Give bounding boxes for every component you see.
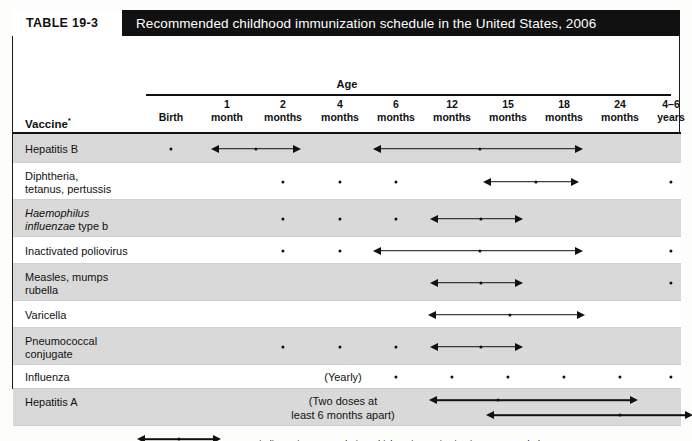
cell-note: (Two doses atleast 6 months apart) <box>291 394 394 422</box>
column-header-m18: 18months <box>545 98 583 124</box>
vaccine-name-suffix: type b <box>75 220 108 232</box>
vaccine-name-line: Hepatitis A <box>25 396 78 409</box>
column-header-y46: 4–6years <box>657 98 684 124</box>
column-header-line1: 6 <box>377 98 415 111</box>
range-arrow <box>430 342 523 352</box>
vaccine-name-influenza: Influenza <box>25 371 70 384</box>
legend-arrow <box>137 434 221 441</box>
arrow-head-right-icon <box>515 279 523 287</box>
dose-dot <box>338 180 341 183</box>
arrow-head-left-icon <box>486 411 494 419</box>
italic-species-name: Haemophilus <box>25 207 89 219</box>
column-header-line1: 18 <box>545 98 583 111</box>
range-arrow <box>373 144 583 154</box>
vaccine-header-footnote-marker: * <box>68 116 71 125</box>
dose-dot <box>281 217 284 220</box>
column-header-line2: months <box>321 111 359 124</box>
arrow-head-left-icon <box>483 178 491 186</box>
dose-dot <box>281 180 284 183</box>
table-row: Measles, mumpsrubella <box>13 264 681 301</box>
dose-dot <box>450 375 453 378</box>
table-row: Hepatitis A(Two doses atleast 6 months a… <box>13 389 681 426</box>
arrow-mid-dot <box>479 345 482 348</box>
dose-dot <box>669 180 672 183</box>
table-row: Hepatitis B <box>13 134 681 163</box>
arrow-head-left-icon <box>137 435 145 441</box>
column-header-line1: 24 <box>601 98 639 111</box>
table-frame: Age Vaccine* Birth1month2months4months6m… <box>12 36 680 389</box>
column-header-line1: 2 <box>264 98 302 111</box>
column-header-line1: 12 <box>433 98 471 111</box>
table-title-bar: TABLE 19-3 Recommended childhood immuniz… <box>12 10 680 36</box>
column-header-m6: 6months <box>377 98 415 124</box>
vaccine-column-header: Vaccine* <box>25 116 71 130</box>
vaccine-name-line: Pneumococcal <box>25 335 97 348</box>
arrow-mid-dot <box>479 281 482 284</box>
age-group-header: Age <box>147 78 547 90</box>
vaccine-name-line: Influenza <box>25 371 70 384</box>
arrow-mid-dot <box>177 437 180 440</box>
column-header-m12: 12months <box>433 98 471 124</box>
dose-dot <box>394 217 397 220</box>
arrow-head-right-icon <box>515 343 523 351</box>
cell-note-line: (Two doses at <box>291 394 394 408</box>
arrow-head-right-icon <box>515 215 523 223</box>
column-header-line1: 1 <box>211 98 243 111</box>
arrow-shaft <box>436 282 517 284</box>
column-header-m1: 1month <box>211 98 243 124</box>
vaccine-name-varicella: Varicella <box>25 309 66 322</box>
cell-note: (Yearly) <box>324 370 362 384</box>
arrow-head-left-icon <box>430 279 438 287</box>
vaccine-name-line: Measles, mumps <box>25 271 108 284</box>
arrow-head-left-icon <box>428 311 436 319</box>
age-header-rule <box>146 94 671 96</box>
table-title: Recommended childhood immunization sched… <box>122 10 680 36</box>
table-figure: TABLE 19-3 Recommended childhood immuniz… <box>0 0 692 441</box>
column-header-line1: 15 <box>489 98 527 111</box>
vaccine-name-line: rubella <box>25 284 108 297</box>
vaccine-name-haemophilus-influenzae-type-b: Haemophilusinfluenzae type b <box>25 207 108 233</box>
arrow-head-left-icon <box>430 215 438 223</box>
column-header-m4: 4months <box>321 98 359 124</box>
dose-dot <box>669 375 672 378</box>
arrow-head-left-icon <box>211 145 219 153</box>
range-arrow <box>429 395 638 405</box>
arrow-shaft <box>435 399 632 401</box>
table-row: Haemophilusinfluenzae type b <box>13 200 681 237</box>
vaccine-name-measles-mumps-rubella: Measles, mumpsrubella <box>25 271 108 297</box>
arrow-mid-dot <box>479 217 482 220</box>
vaccine-name-line: Hepatitis B <box>25 143 78 156</box>
arrow-head-left-icon <box>373 145 381 153</box>
table-row: Inactivated poliovirus <box>13 237 681 264</box>
arrow-shaft <box>436 218 517 220</box>
dose-dot <box>281 249 284 252</box>
arrow-mid-dot <box>534 180 537 183</box>
arrow-mid-dot <box>478 147 481 150</box>
vaccine-name-line: conjugate <box>25 348 97 361</box>
dose-dot <box>338 249 341 252</box>
table-number: TABLE 19-3 <box>12 10 122 36</box>
arrow-head-right-icon <box>293 145 301 153</box>
vaccine-name-inactivated-poliovirus: Inactivated poliovirus <box>25 245 128 258</box>
column-header-line2: months <box>545 111 583 124</box>
column-header-line2: years <box>657 111 684 124</box>
arrow-head-right-icon <box>575 145 583 153</box>
dose-dot <box>562 375 565 378</box>
range-arrow <box>483 177 579 187</box>
range-arrow <box>430 278 523 288</box>
column-header-line1: 4–6 <box>657 98 684 111</box>
vaccine-name-hepatitis-b: Hepatitis B <box>25 143 78 156</box>
dose-dot <box>618 375 621 378</box>
arrow-head-left-icon <box>373 247 381 255</box>
italic-species-name: influenzae <box>25 220 75 232</box>
vaccine-column-header-label: Vaccine <box>25 118 68 130</box>
column-header-m24: 24months <box>601 98 639 124</box>
vaccine-name-line: Varicella <box>25 309 66 322</box>
arrow-shaft <box>434 314 579 316</box>
range-arrow <box>428 310 585 320</box>
dose-dot <box>506 375 509 378</box>
dose-dot <box>338 217 341 220</box>
arrow-mid-dot <box>618 413 621 416</box>
column-header-line2: months <box>264 111 302 124</box>
range-arrow <box>373 246 583 256</box>
